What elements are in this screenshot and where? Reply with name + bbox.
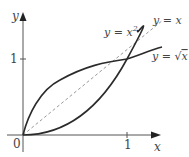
x-tick-label-1: 1: [124, 138, 132, 152]
line-y-equals-x: [23, 20, 163, 135]
y-axis-arrow-icon: [20, 12, 27, 21]
function-graph: y x 0 1 1 y = x2 y = x y = √x: [0, 0, 189, 157]
curve-y-equals-sqrt-x: [23, 47, 162, 135]
x-axis-arrow-icon: [151, 132, 161, 139]
curve-label-x-squared: y = x2: [103, 24, 138, 39]
curve-label-sqrt-var: x: [181, 50, 188, 63]
y-axis-label: y: [11, 9, 19, 23]
curve-y-equals-x-squared: [23, 26, 144, 135]
curve-label-sqrt-x: y = √x: [151, 50, 188, 63]
curve-label-x-squared-base: y = x: [103, 26, 133, 39]
curve-label-x-squared-exponent: 2: [132, 24, 138, 33]
origin-label: 0: [13, 137, 21, 151]
curve-label-sqrt-prefix: y =: [151, 50, 174, 63]
line-label-y-equals-x: y = x: [152, 14, 182, 27]
y-tick-label-1: 1: [10, 52, 18, 66]
x-axis-label: x: [154, 140, 161, 154]
